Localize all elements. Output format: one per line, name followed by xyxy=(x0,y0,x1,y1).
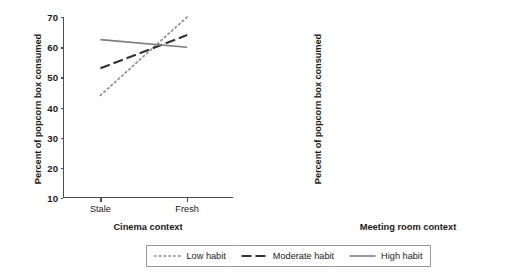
y-tick-label-left-70: 70 xyxy=(47,12,58,23)
legend-item-moderate-habit: Moderate habit xyxy=(241,251,334,261)
legend-label-moderate-habit: Moderate habit xyxy=(273,251,334,261)
legend-key-solid-icon xyxy=(349,252,376,260)
y-tick-label-left-40: 40 xyxy=(47,102,58,113)
x-axis-title-left: Cinema context xyxy=(113,222,182,232)
chart-panel-cinema: Percent of popcorn box consumed 70 60 50… xyxy=(0,0,260,240)
legend-item-low-habit: Low habit xyxy=(154,251,225,261)
x-tick-left-fresh xyxy=(187,198,188,202)
series-line-low-habit-cinema xyxy=(100,17,187,95)
y-axis-title-right: Percent of popcorn box consumed xyxy=(313,14,323,204)
x-tick-label-left-fresh: Fresh xyxy=(175,204,199,214)
chart-panel-meeting-room: Percent of popcorn box consumed 70 60 50… xyxy=(260,0,520,240)
legend-label-low-habit: Low habit xyxy=(186,251,225,261)
legend-key-dashed-icon xyxy=(241,252,268,260)
series-lines-cinema xyxy=(63,17,233,198)
x-tick-left-stale xyxy=(100,198,101,202)
legend-key-dotted-icon xyxy=(154,252,181,260)
y-axis-title-left: Percent of popcorn box consumed xyxy=(33,14,43,204)
y-tick-label-left-30: 30 xyxy=(47,132,58,143)
plot-area-cinema: 70 60 50 40 30 20 10 Stale Fresh xyxy=(63,17,233,198)
y-tick-label-left-60: 60 xyxy=(47,42,58,53)
chart-legend: Low habit Moderate habit High habit xyxy=(146,245,431,267)
figure-panel-chart: Percent of popcorn box consumed 70 60 50… xyxy=(0,0,520,277)
x-axis-title-right: Meeting room context xyxy=(360,222,457,232)
y-tick-label-left-10: 10 xyxy=(47,193,58,204)
y-tick-label-left-50: 50 xyxy=(47,72,58,83)
y-tick-left-10 xyxy=(61,198,63,199)
legend-item-high-habit: High habit xyxy=(349,251,422,261)
legend-label-high-habit: High habit xyxy=(381,251,422,261)
x-tick-label-left-stale: Stale xyxy=(90,204,111,214)
y-tick-label-left-20: 20 xyxy=(47,162,58,173)
